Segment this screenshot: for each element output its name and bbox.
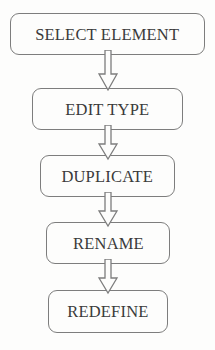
flowchart-node-rename[interactable]: RENAME <box>46 222 170 264</box>
flowchart-node-select-element[interactable]: SELECT ELEMENT <box>10 13 205 55</box>
flowchart-arrow-edit-to-duplicate <box>96 125 120 161</box>
flowchart-arrow-select-to-edit <box>96 50 120 92</box>
flowchart-diagram: SELECT ELEMENT EDIT TYPE DUPLICATE RENAM… <box>0 0 215 350</box>
flowchart-node-label: DUPLICATE <box>62 168 154 185</box>
flowchart-node-duplicate[interactable]: DUPLICATE <box>40 155 175 197</box>
flowchart-node-label: EDIT TYPE <box>65 101 149 118</box>
flowchart-arrow-duplicate-to-rename <box>96 192 120 228</box>
flowchart-node-label: SELECT ELEMENT <box>36 26 180 43</box>
flowchart-node-edit-type[interactable]: EDIT TYPE <box>32 88 183 130</box>
flowchart-node-label: REDEFINE <box>67 303 148 320</box>
flowchart-arrow-rename-to-redefine <box>96 259 120 295</box>
flowchart-node-redefine[interactable]: REDEFINE <box>48 290 168 333</box>
flowchart-node-label: RENAME <box>73 235 144 252</box>
